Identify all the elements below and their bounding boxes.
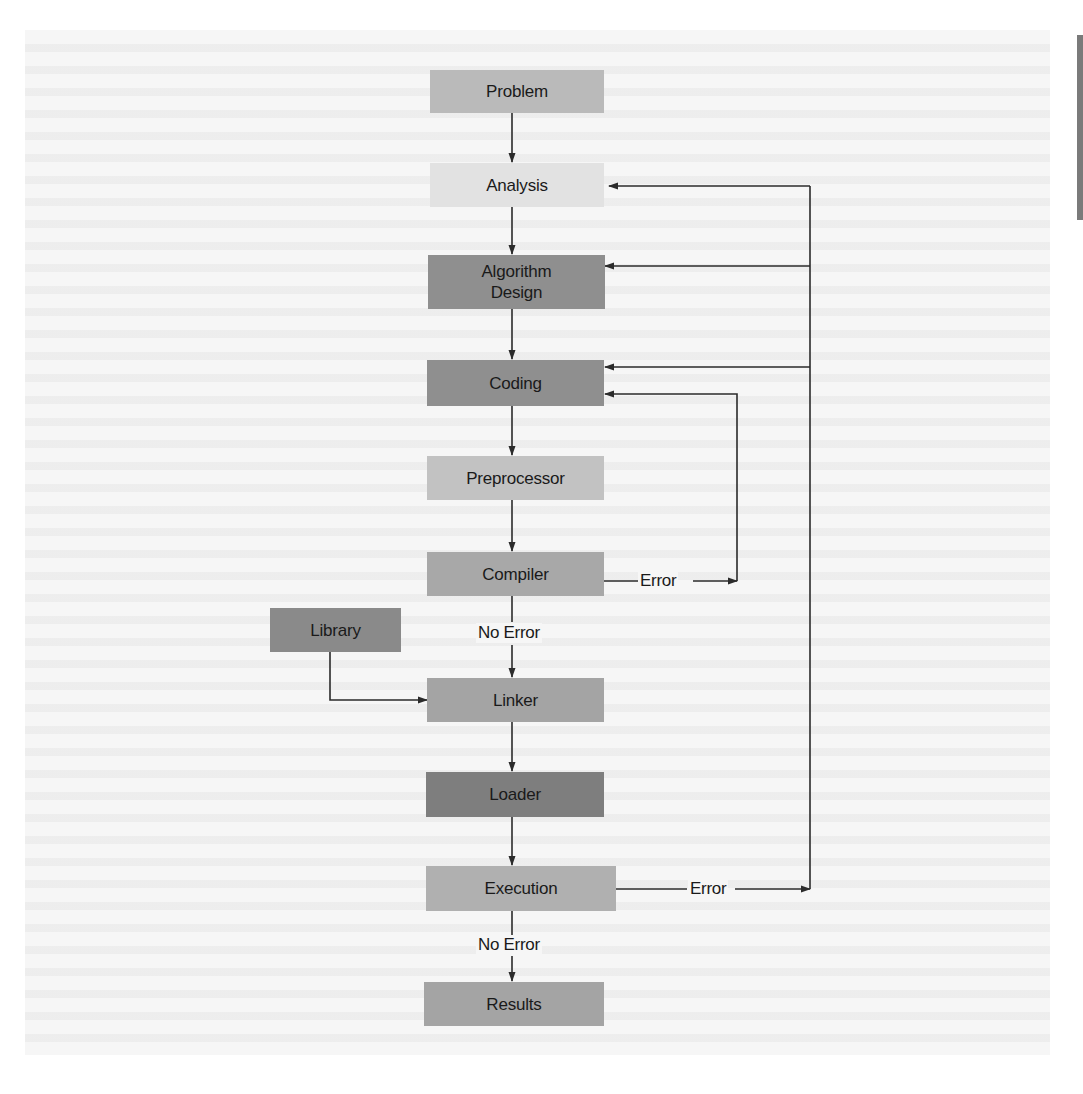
edge-label-execution-no-error: No Error <box>476 935 542 955</box>
node-results-label: Results <box>486 994 541 1015</box>
node-compiler-label: Compiler <box>482 564 548 585</box>
node-coding: Coding <box>427 360 604 406</box>
node-library-label: Library <box>310 620 361 641</box>
node-algorithm-design-label-line1: Algorithm <box>481 261 551 282</box>
node-compiler: Compiler <box>427 552 604 596</box>
node-linker: Linker <box>427 678 604 722</box>
node-library: Library <box>270 608 401 652</box>
edge-label-compiler-error: Error <box>638 571 678 591</box>
node-linker-label: Linker <box>493 690 538 711</box>
node-preprocessor-label: Preprocessor <box>466 468 565 489</box>
node-algorithm-design-label-line2: Design <box>491 282 543 303</box>
node-coding-label: Coding <box>489 373 542 394</box>
node-analysis: Analysis <box>430 163 604 207</box>
node-preprocessor: Preprocessor <box>427 456 604 500</box>
node-problem: Problem <box>430 70 604 113</box>
edge-label-execution-error: Error <box>688 879 728 899</box>
node-loader-label: Loader <box>489 784 541 805</box>
node-loader: Loader <box>426 772 604 817</box>
node-problem-label: Problem <box>486 81 548 102</box>
edge-label-compiler-no-error: No Error <box>476 623 542 643</box>
node-execution-label: Execution <box>485 878 558 899</box>
node-execution: Execution <box>426 866 616 911</box>
edge-library-linker <box>330 652 427 700</box>
node-algorithm-design: Algorithm Design <box>428 255 605 309</box>
node-results: Results <box>424 982 604 1026</box>
edge-compiler-error-return <box>605 394 737 581</box>
node-analysis-label: Analysis <box>486 175 548 196</box>
